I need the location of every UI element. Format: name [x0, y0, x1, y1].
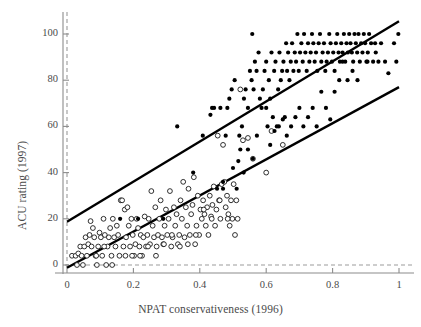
x-tick-label-0: 0	[47, 279, 87, 290]
y-tick-label-2: 40	[24, 166, 58, 177]
regression-lines	[67, 21, 399, 267]
scatter-plot-canvas	[0, 0, 421, 327]
filled-circle-markers	[118, 32, 400, 221]
chart-figure: NPAT conservativeness (1996) ACU rating …	[0, 0, 421, 327]
y-tick-label-0: 0	[24, 258, 58, 269]
open-circle-markers	[70, 87, 286, 267]
y-tick-label-3: 60	[24, 119, 58, 130]
y-tick-label-4: 80	[24, 73, 58, 84]
x-tick-label-5: 1	[379, 279, 419, 290]
x-tick-label-3: 0.6	[246, 279, 286, 290]
x-tick-label-4: 0.8	[313, 279, 353, 290]
guide-lines	[65, 12, 414, 269]
x-tick-label-2: 0.4	[180, 279, 220, 290]
x-axis-title: NPAT conservativeness (1996)	[0, 303, 421, 315]
y-tick-label-5: 100	[24, 27, 58, 38]
x-tick-label-1: 0.2	[113, 279, 153, 290]
y-tick-label-1: 20	[24, 212, 58, 223]
